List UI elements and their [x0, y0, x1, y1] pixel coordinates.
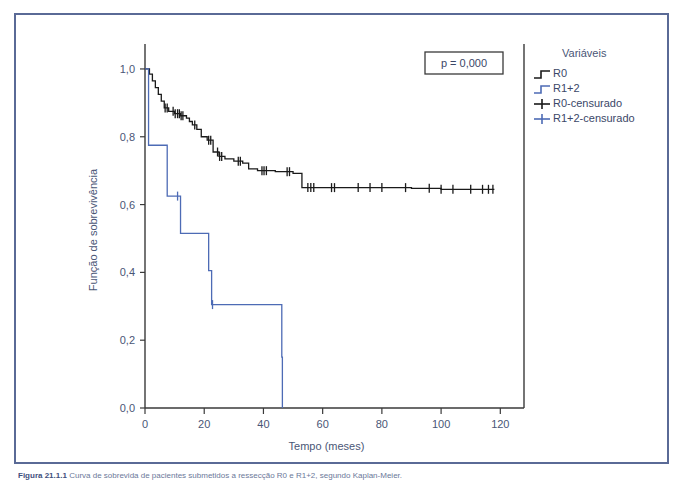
y-axis-tick-label: 0,6 — [120, 199, 135, 211]
y-axis-tick-label: 0,4 — [120, 266, 135, 278]
legend-title: Variáveis — [562, 47, 607, 59]
y-axis-tick-label: 1,0 — [120, 63, 135, 75]
legend-item-r0[interactable]: R0 — [534, 67, 567, 79]
x-axis-tick-label: 120 — [491, 418, 509, 430]
caption-number: Figura 21.1.1 — [18, 471, 67, 480]
legend-item-label: R0 — [553, 67, 567, 79]
legend-step-icon — [534, 86, 550, 93]
legend-item-r1plus2-censurado[interactable]: R1+2-censurado — [534, 112, 635, 124]
figure-caption: Figura 21.1.1 Curva de sobrevida de paci… — [18, 470, 678, 481]
x-axis-tick-label: 60 — [317, 418, 329, 430]
legend-item-label: R1+2 — [553, 82, 580, 94]
legend-item-r1plus2[interactable]: R1+2 — [534, 82, 580, 94]
legend-item-label: R1+2-censurado — [553, 112, 635, 124]
y-axis-tick-label: 0,8 — [120, 131, 135, 143]
x-axis-tick-label: 80 — [376, 418, 388, 430]
x-axis-tick-label: 0 — [142, 418, 148, 430]
x-axis-tick-label: 100 — [432, 418, 450, 430]
figure-root: 0,00,20,40,60,81,0020406080100120Tempo (… — [0, 0, 687, 487]
x-axis-tick-label: 40 — [257, 418, 269, 430]
p-value-label: p = 0,000 — [441, 57, 487, 69]
x-axis-title: Tempo (meses) — [289, 440, 365, 452]
x-axis-tick-label: 20 — [198, 418, 210, 430]
legend-item-label: R0-censurado — [553, 97, 622, 109]
caption-body: Curva de sobrevida de pacientes submetid… — [69, 471, 402, 480]
survival-curve-r1plus2 — [145, 69, 282, 408]
survival-curve-r0 — [145, 69, 494, 189]
legend-item-r0-censurado[interactable]: R0-censurado — [534, 97, 622, 109]
y-axis-tick-label: 0,2 — [120, 334, 135, 346]
survival-chart: 0,00,20,40,60,81,0020406080100120Tempo (… — [0, 0, 687, 487]
y-axis-tick-label: 0,0 — [120, 402, 135, 414]
legend-step-icon — [534, 71, 550, 78]
y-axis-title: Função de sobrevivência — [87, 168, 99, 291]
